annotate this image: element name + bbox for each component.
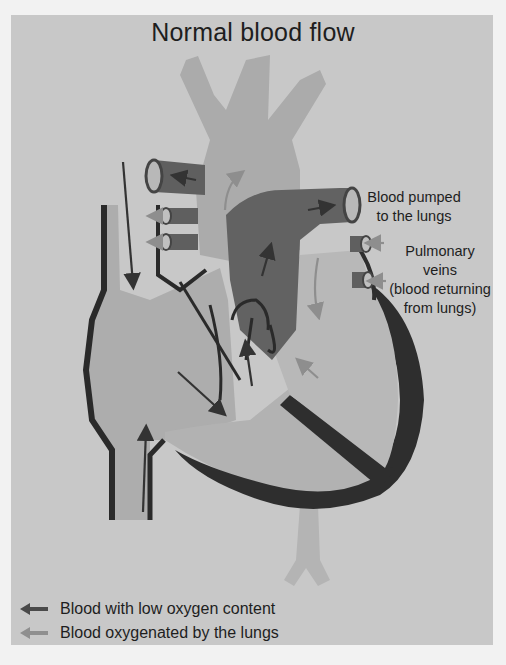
- legend-label: Blood oxygenated by the lungs: [60, 624, 279, 642]
- legend-item-oxygenated: Blood oxygenated by the lungs: [18, 624, 279, 642]
- dark-arrow-left-icon: [18, 602, 50, 616]
- pulmonary-veins-left: [161, 208, 198, 250]
- legend-item-deoxygenated: Blood with low oxygen content: [18, 600, 275, 618]
- descending-aorta: [284, 505, 330, 586]
- left-pulmonary-artery: [146, 160, 205, 195]
- legend-label: Blood with low oxygen content: [60, 600, 275, 618]
- heart-diagram: [0, 0, 506, 665]
- light-arrow-left-icon: [18, 626, 50, 640]
- label-pulmonary-veins: Pulmonary veins (blood returning from lu…: [384, 242, 496, 318]
- label-pulmonary-artery: Blood pumped to the lungs: [362, 188, 466, 226]
